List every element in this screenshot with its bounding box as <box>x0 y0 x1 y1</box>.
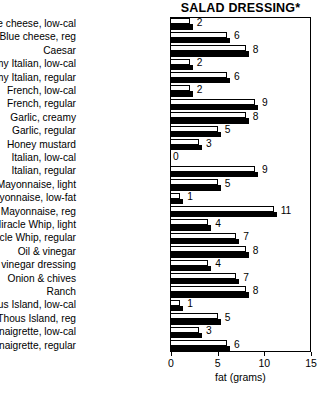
bar-category-label: French, low-cal <box>0 85 76 97</box>
bar-category-label: Blue cheese, low-cal <box>0 18 76 30</box>
bar-value-label: 11 <box>281 205 292 217</box>
bar-value-label: 9 <box>262 97 268 109</box>
bar-value-label: 4 <box>215 258 221 270</box>
bar-shadow <box>171 333 202 339</box>
bar-shadow <box>171 78 230 84</box>
bar-value-label: 9 <box>262 164 268 176</box>
bar-shadow <box>171 185 221 191</box>
bar-value-label: 7 <box>243 231 249 243</box>
bar-value-label: 6 <box>234 71 240 83</box>
bar-category-label: French, regular <box>0 98 76 110</box>
bar-value-label: 8 <box>253 111 259 123</box>
bar-value-label: 7 <box>243 272 249 284</box>
bar-shadow <box>171 145 202 151</box>
bar <box>171 179 218 191</box>
bar <box>171 219 208 231</box>
bar-category-label: Honey mustard <box>0 139 76 151</box>
bar-shadow <box>171 239 239 245</box>
bar-category-label: Miracle Whip, regular <box>0 232 76 244</box>
bar-value-label: 5 <box>225 312 231 324</box>
bar-category-label: Russian/Thous Island, reg <box>0 313 76 325</box>
bar <box>171 273 236 285</box>
bar <box>171 233 236 245</box>
bar-category-label: Garlic, creamy <box>0 112 76 124</box>
bar-shadow <box>171 91 193 97</box>
bar-category-label: Oil & vinegar dressing <box>0 259 76 271</box>
bar-shadow <box>171 292 249 298</box>
bar-category-label: Blue cheese, reg <box>0 31 76 43</box>
bar-value-label: 2 <box>197 84 203 96</box>
bar-shadow <box>171 212 277 218</box>
bar-value-label: 5 <box>225 124 231 136</box>
bar-value-label: 0 <box>173 151 179 163</box>
bar <box>171 340 227 352</box>
x-axis-tick <box>311 352 312 356</box>
bar <box>171 313 218 325</box>
bar-category-label: Russian/Thous Island, low-cal <box>0 299 76 311</box>
bar-shadow <box>171 24 193 30</box>
bar <box>171 260 208 272</box>
x-axis-tick <box>218 352 219 356</box>
x-axis-tick <box>264 352 265 356</box>
x-axis: fat (grams) 051015 <box>170 352 311 396</box>
bar <box>171 327 199 339</box>
bar-shadow <box>171 199 183 205</box>
bar-shadow <box>171 132 221 138</box>
bar-shadow <box>171 252 249 258</box>
bar-category-label: Miracle Whip, light <box>0 219 76 231</box>
x-axis-tick-label: 5 <box>215 357 221 369</box>
bar <box>171 300 180 312</box>
bar-shadow <box>171 51 249 57</box>
bar <box>171 59 190 71</box>
x-axis-tick <box>171 352 172 356</box>
bar-shadow <box>171 38 230 44</box>
bar-category-label: Vinaigrette, low-cal <box>0 326 76 338</box>
bar-category-label: Oil & vinegar <box>0 246 76 258</box>
bar-shadow <box>171 266 211 272</box>
bar <box>171 112 246 124</box>
bar-category-label: Vinaigrette, regular <box>0 340 76 352</box>
bar-shadow <box>171 346 230 352</box>
bar <box>171 18 190 30</box>
bar-value-label: 3 <box>206 325 212 337</box>
bar-category-label: Creamy Italian, low-cal <box>0 58 76 70</box>
bar <box>171 246 246 258</box>
bar-category-label: Creamy Italian, regular <box>0 72 76 84</box>
bar <box>171 166 255 178</box>
bar <box>171 99 255 111</box>
bar-rows-container: Blue cheese, low-cal2Blue cheese, reg6Ca… <box>0 17 329 352</box>
bar-value-label: 2 <box>197 17 203 29</box>
bar <box>171 139 199 151</box>
bar-category-label: Italian, low-cal <box>0 152 76 164</box>
bar <box>171 286 246 298</box>
salad-dressing-fat-chart: SALAD DRESSING* Blue cheese, low-cal2Blu… <box>0 0 329 396</box>
x-axis-title: fat (grams) <box>170 371 311 383</box>
bar-value-label: 3 <box>206 138 212 150</box>
bar-value-label: 8 <box>253 44 259 56</box>
bar <box>171 126 218 138</box>
x-axis-tick-label: 15 <box>305 357 317 369</box>
bar <box>171 72 227 84</box>
bar-shadow <box>171 306 183 312</box>
bar-category-label: Onion & chives <box>0 273 76 285</box>
bar-value-label: 2 <box>197 57 203 69</box>
bar-shadow <box>171 319 221 325</box>
bar-category-label: Italian, regular <box>0 165 76 177</box>
chart-title: SALAD DRESSING* <box>170 1 311 15</box>
bar <box>171 85 190 97</box>
bar <box>171 45 246 57</box>
bar <box>171 206 274 218</box>
bar-value-label: 1 <box>187 191 193 203</box>
bar-category-label: Ranch <box>0 286 76 298</box>
bar-value-label: 1 <box>187 298 193 310</box>
bar-category-label: Mayonnaise, reg <box>0 206 76 218</box>
x-axis-tick-label: 0 <box>168 357 174 369</box>
bar-value-label: 5 <box>225 178 231 190</box>
bar-shadow <box>171 172 258 178</box>
bar-value-label: 6 <box>234 339 240 351</box>
bar-category-label: Mayonnaise, low-fat <box>0 192 76 204</box>
bar-value-label: 8 <box>253 285 259 297</box>
bar-shadow <box>171 105 258 111</box>
bar-shadow <box>171 65 193 71</box>
bar-category-label: Caesar <box>0 45 76 57</box>
